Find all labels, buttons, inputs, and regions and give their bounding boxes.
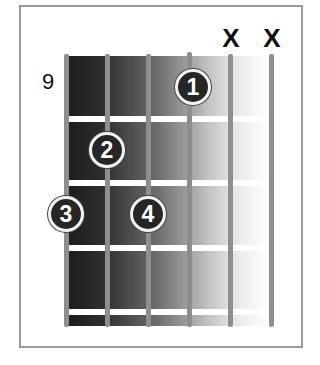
mute-marker-string-5: X xyxy=(222,25,239,51)
string-5 xyxy=(228,54,233,327)
starting-fret-number: 9 xyxy=(42,71,54,93)
mute-marker-string-6: X xyxy=(263,25,280,51)
fret-line-4 xyxy=(66,309,271,315)
finger-dot-4: 4 xyxy=(130,196,166,232)
fret-line-3 xyxy=(66,245,271,251)
finger-dot-1: 1 xyxy=(175,69,211,105)
string-1 xyxy=(64,54,69,327)
string-3 xyxy=(146,54,151,327)
string-6 xyxy=(269,54,274,327)
finger-dot-3: 3 xyxy=(48,196,84,232)
string-2 xyxy=(105,54,110,327)
fret-line-2 xyxy=(66,180,271,186)
fretboard xyxy=(66,56,271,326)
fret-line-1 xyxy=(66,116,271,122)
finger-dot-2: 2 xyxy=(89,132,125,168)
